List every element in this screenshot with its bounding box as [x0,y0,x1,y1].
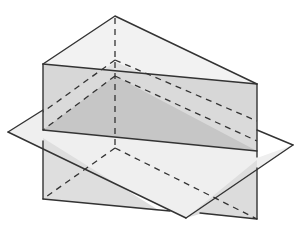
plane-edge-upper-right [257,130,293,145]
diagram-canvas: Triangular prism intersected by a plane [0,0,295,229]
prism-plane-diagram [0,0,295,229]
